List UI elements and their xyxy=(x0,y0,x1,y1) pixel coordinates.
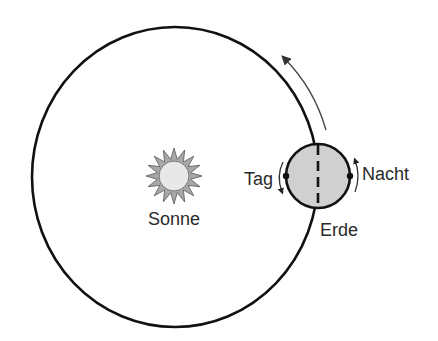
night-label: Nacht xyxy=(362,164,409,184)
earth-label: Erde xyxy=(320,220,358,240)
orbit-direction-arrow-icon xyxy=(284,58,326,130)
day-label: Tag xyxy=(244,169,273,189)
sun-icon xyxy=(146,148,202,204)
orbit-diagram: Sonne Tag Nacht Erde xyxy=(0,0,438,341)
day-rotation-arrow-icon xyxy=(279,162,283,192)
night-rotation-arrow-icon xyxy=(355,160,358,192)
night-point-dot xyxy=(347,173,353,179)
sun-label: Sonne xyxy=(148,209,200,229)
diagram-canvas: Sonne Tag Nacht Erde xyxy=(0,0,438,341)
day-point-dot xyxy=(283,173,289,179)
